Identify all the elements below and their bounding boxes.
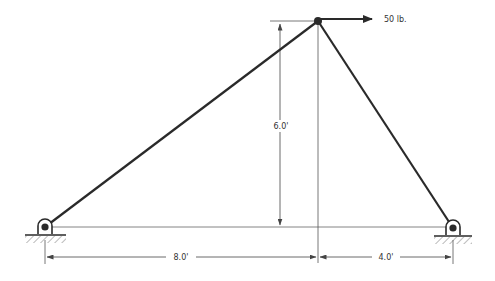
apex-joint [314, 17, 322, 25]
left-span-dimension-label: 8.0' [174, 253, 189, 262]
truss-diagram: 6.0' 8.0' 4.0' 50 lb. [0, 0, 495, 281]
right-member [318, 21, 453, 228]
left-pin-support [25, 219, 66, 243]
load-label: 50 lb. [384, 15, 407, 24]
right-span-dimension-label: 4.0' [379, 253, 394, 262]
height-dimension-label: 6.0' [274, 122, 289, 131]
right-pin-support [434, 220, 472, 244]
